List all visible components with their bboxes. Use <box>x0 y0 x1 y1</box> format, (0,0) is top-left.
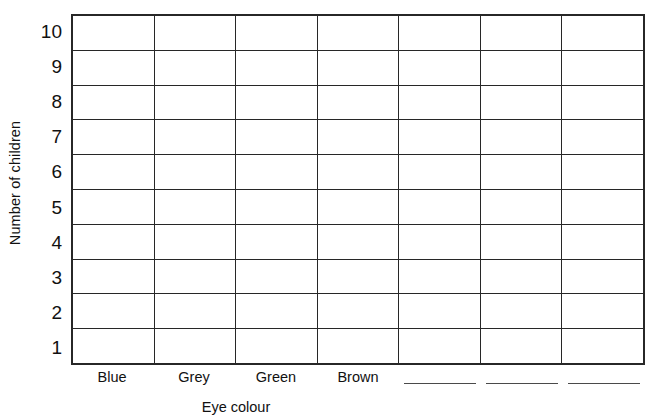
grid-cell[interactable] <box>562 260 643 294</box>
y-tick-label: 4 <box>30 225 68 260</box>
y-tick-label: 10 <box>30 14 68 49</box>
grid-cell[interactable] <box>562 51 643 85</box>
grid-cell[interactable] <box>318 329 400 363</box>
x-axis-title: Eye colour <box>71 399 401 415</box>
grid-cell[interactable] <box>155 86 237 120</box>
grid-row <box>73 190 643 225</box>
grid-cell[interactable] <box>399 260 481 294</box>
grid-cell[interactable] <box>155 51 237 85</box>
x-category-blank-field-1[interactable] <box>399 368 481 390</box>
grid-row <box>73 16 643 51</box>
x-category-blank-field-2[interactable] <box>481 368 563 390</box>
grid-cell[interactable] <box>73 260 155 294</box>
y-axis-title: Number of children <box>0 0 30 365</box>
grid-cell[interactable] <box>399 294 481 328</box>
grid-cell[interactable] <box>236 294 318 328</box>
grid-cell[interactable] <box>155 155 237 189</box>
grid-cell[interactable] <box>318 155 400 189</box>
x-category-label-grey: Grey <box>153 368 235 390</box>
y-axis-tick-labels: 10 9 8 7 6 5 4 3 2 1 <box>30 14 68 365</box>
grid-cell[interactable] <box>236 16 318 50</box>
grid-cell[interactable] <box>318 225 400 259</box>
grid-cell[interactable] <box>399 225 481 259</box>
grid-cell[interactable] <box>73 51 155 85</box>
grid-cell[interactable] <box>155 120 237 154</box>
grid-cell[interactable] <box>155 225 237 259</box>
x-axis-category-labels: Blue Grey Green Brown <box>71 368 645 390</box>
y-tick-label: 7 <box>30 119 68 154</box>
grid-cell[interactable] <box>155 190 237 224</box>
grid-cell[interactable] <box>73 155 155 189</box>
grid-cell[interactable] <box>562 190 643 224</box>
grid-cell[interactable] <box>562 329 643 363</box>
grid-cell[interactable] <box>318 51 400 85</box>
grid-cell[interactable] <box>318 190 400 224</box>
grid-row <box>73 260 643 295</box>
grid-cell[interactable] <box>155 329 237 363</box>
blank-write-in-line[interactable] <box>486 383 558 384</box>
grid-cell[interactable] <box>481 51 563 85</box>
grid-cell[interactable] <box>318 120 400 154</box>
grid-cell[interactable] <box>399 16 481 50</box>
grid-cell[interactable] <box>236 120 318 154</box>
grid-cell[interactable] <box>318 260 400 294</box>
grid-cell[interactable] <box>73 225 155 259</box>
grid-cell[interactable] <box>481 16 563 50</box>
grid-cell[interactable] <box>73 16 155 50</box>
grid-cell[interactable] <box>236 51 318 85</box>
grid-cell[interactable] <box>318 86 400 120</box>
grid-cell[interactable] <box>155 294 237 328</box>
grid-cell[interactable] <box>562 155 643 189</box>
grid-cell[interactable] <box>236 190 318 224</box>
grid-cell[interactable] <box>73 120 155 154</box>
grid-cell[interactable] <box>481 155 563 189</box>
grid-cell[interactable] <box>236 86 318 120</box>
grid-cell[interactable] <box>562 120 643 154</box>
grid-cell[interactable] <box>73 86 155 120</box>
grid-row <box>73 155 643 190</box>
grid-cell[interactable] <box>73 190 155 224</box>
grid-cell[interactable] <box>399 51 481 85</box>
y-tick-label: 8 <box>30 84 68 119</box>
grid-cell[interactable] <box>481 260 563 294</box>
grid-cell[interactable] <box>481 294 563 328</box>
grid-cell[interactable] <box>236 155 318 189</box>
grid-cell[interactable] <box>73 329 155 363</box>
x-category-label-blue: Blue <box>71 368 153 390</box>
grid-cell[interactable] <box>481 190 563 224</box>
grid-cell[interactable] <box>236 260 318 294</box>
x-category-blank-field-3[interactable] <box>563 368 645 390</box>
grid-cell[interactable] <box>155 260 237 294</box>
grid-cell[interactable] <box>562 294 643 328</box>
grid-cell[interactable] <box>73 294 155 328</box>
y-tick-label: 1 <box>30 330 68 365</box>
grid-cell[interactable] <box>399 86 481 120</box>
grid-row <box>73 51 643 86</box>
grid-row <box>73 120 643 155</box>
grid-cell[interactable] <box>399 120 481 154</box>
grid-cell[interactable] <box>481 86 563 120</box>
y-tick-label: 5 <box>30 189 68 224</box>
blank-write-in-line[interactable] <box>404 383 476 384</box>
y-axis-title-text: Number of children <box>7 120 23 244</box>
grid-cell[interactable] <box>562 86 643 120</box>
grid-cell[interactable] <box>562 225 643 259</box>
grid-cell[interactable] <box>481 225 563 259</box>
blank-write-in-line[interactable] <box>568 383 640 384</box>
grid-cell[interactable] <box>318 294 400 328</box>
grid-row <box>73 86 643 121</box>
grid-cell[interactable] <box>318 16 400 50</box>
y-tick-label: 2 <box>30 295 68 330</box>
grid-row <box>73 225 643 260</box>
grid-cell[interactable] <box>155 16 237 50</box>
grid-cell[interactable] <box>399 155 481 189</box>
grid-cell[interactable] <box>399 329 481 363</box>
grid-cell[interactable] <box>562 16 643 50</box>
grid-cell[interactable] <box>236 225 318 259</box>
grid-cell[interactable] <box>236 329 318 363</box>
grid-cell[interactable] <box>399 190 481 224</box>
grid-row <box>73 329 643 363</box>
x-category-label-green: Green <box>235 368 317 390</box>
grid-cell[interactable] <box>481 120 563 154</box>
grid-cell[interactable] <box>481 329 563 363</box>
